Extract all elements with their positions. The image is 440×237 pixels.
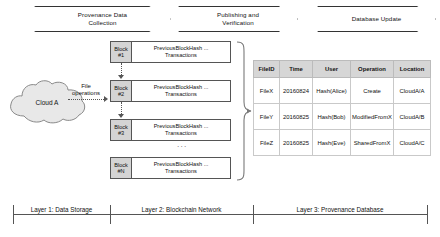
block-tag-line2: #1 — [118, 52, 124, 58]
cell-fileid: FileX — [254, 78, 280, 104]
block-n: Block #N PreviousBlockHash ... Transacti… — [110, 157, 231, 179]
file-operations-label: File operations — [63, 83, 109, 97]
cell-time: 20160825 — [280, 104, 313, 130]
cell-operation: Create — [351, 78, 394, 104]
phase-arrow-database-update: Database Update — [317, 6, 436, 32]
cell-time: 20160824 — [280, 78, 313, 104]
block-body-line1: PreviousBlockHash ... — [154, 45, 209, 52]
block-body-line1: PreviousBlockHash ... — [154, 123, 209, 130]
block-link-2-3-line — [121, 102, 122, 114]
block-link-1-2-line — [121, 63, 122, 75]
block-link-1-2-arrow — [118, 75, 124, 79]
phase-label-line1: Database Update — [352, 15, 402, 23]
cell-operation: ModifiedFromX — [351, 104, 394, 130]
phase-arrow-provenance-data-collection: Provenance Data Collection — [34, 6, 171, 32]
file-operations-arrow-line — [68, 99, 104, 100]
file-operations-line2: operations — [63, 90, 109, 97]
cell-user: Hash(Alice) — [313, 78, 351, 104]
block-1-body: PreviousBlockHash ... Transactions — [132, 41, 231, 63]
block-3: Block #3 PreviousBlockHash ... Transacti… — [110, 119, 231, 141]
file-operations-line1: File — [63, 83, 109, 90]
block-n-tag: Block #N — [110, 157, 132, 179]
block-1: Block #1 PreviousBlockHash ... Transacti… — [110, 41, 231, 63]
layer-2-label: Layer 2: Blockchain Network — [110, 206, 253, 213]
blocks-to-table-brace — [233, 40, 255, 182]
block-2: Block #2 PreviousBlockHash ... Transacti… — [110, 80, 231, 102]
layer-3-label: Layer 3: Provenance Database — [253, 206, 427, 213]
table-row: FileY 20160825 Hash(Bob) ModifiedFromX C… — [254, 104, 431, 130]
table-header-operation: Operation — [351, 61, 394, 78]
block-2-tag: Block #2 — [110, 80, 132, 102]
table-header-user: User — [313, 61, 351, 78]
provenance-table: FileID Time User Operation Location File… — [253, 60, 431, 156]
table-header-time: Time — [280, 61, 313, 78]
layer-bar-line — [13, 214, 427, 215]
block-tag-line2: #N — [117, 168, 124, 174]
file-operations-arrow-head — [104, 96, 108, 102]
table-header-location: Location — [394, 61, 431, 78]
block-1-tag: Block #1 — [110, 41, 132, 63]
block-3-tag: Block #3 — [110, 119, 132, 141]
table-header-fileid: FileID — [254, 61, 280, 78]
layer-1-label: Layer 1: Data Storage — [13, 206, 110, 213]
cell-fileid: FileY — [254, 104, 280, 130]
cell-time: 20160825 — [280, 130, 313, 156]
block-tag-line2: #2 — [118, 91, 124, 97]
block-body-line2: Transactions — [165, 130, 197, 137]
phase-arrow-label: Publishing and Verification — [211, 11, 265, 27]
cell-operation: SharedFromX — [351, 130, 394, 156]
cell-location: CloudA/B — [394, 104, 431, 130]
table-header-row: FileID Time User Operation Location — [254, 61, 431, 78]
phase-label-line1: Provenance Data — [78, 11, 127, 19]
block-link-2-3-arrow — [118, 114, 124, 118]
block-body-line2: Transactions — [165, 168, 197, 175]
cell-location: CloudA/A — [394, 78, 431, 104]
cell-user: Hash(Eve) — [313, 130, 351, 156]
table-row: FileZ 20160825 Hash(Eve) SharedFromX Clo… — [254, 130, 431, 156]
block-body-line1: PreviousBlockHash ... — [154, 84, 209, 91]
table-row: FileX 20160824 Hash(Alice) Create CloudA… — [254, 78, 431, 104]
block-2-body: PreviousBlockHash ... Transactions — [132, 80, 231, 102]
cloud-a-label: Cloud A — [6, 99, 88, 106]
block-3-body: PreviousBlockHash ... Transactions — [132, 119, 231, 141]
curly-brace-icon — [233, 40, 255, 182]
block-body-line2: Transactions — [165, 91, 197, 98]
block-n-body: PreviousBlockHash ... Transactions — [132, 157, 231, 179]
blocks-ellipsis: ··· — [177, 143, 188, 150]
block-body-line2: Transactions — [165, 52, 197, 59]
phase-label-line2: Verification — [217, 19, 259, 27]
phase-arrow-publishing-and-verification: Publishing and Verification — [178, 6, 298, 32]
cell-fileid: FileZ — [254, 130, 280, 156]
layer-tick-right — [427, 205, 428, 224]
architecture-diagram: Provenance Data Collection Publishing an… — [0, 0, 440, 237]
phase-arrow-label: Database Update — [346, 15, 408, 23]
phase-label-line2: Collection — [78, 19, 127, 27]
phase-label-line1: Publishing and — [217, 11, 259, 19]
block-body-line1: PreviousBlockHash ... — [154, 161, 209, 168]
cell-user: Hash(Bob) — [313, 104, 351, 130]
block-tag-line2: #3 — [118, 130, 124, 136]
phase-arrow-label: Provenance Data Collection — [72, 11, 133, 27]
cell-location: CloudA/C — [394, 130, 431, 156]
